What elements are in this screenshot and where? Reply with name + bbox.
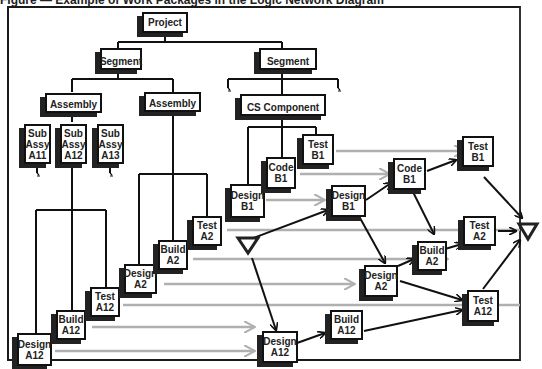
cs-component-box: CS Component bbox=[240, 94, 326, 116]
wp-build-a2-left: Build A2 bbox=[158, 240, 188, 270]
node-code-b1: Code B1 bbox=[393, 158, 426, 190]
node-design-a2: Design A2 bbox=[364, 265, 398, 297]
node-test-a12: Test A12 bbox=[467, 290, 499, 322]
wp-design-a2-left: Design A2 bbox=[124, 264, 157, 294]
sub-assy-a13-box: Sub Assy A13 bbox=[97, 124, 124, 164]
sub-assy-a11-box: Sub Assy A11 bbox=[24, 124, 51, 164]
assembly-box-a1: Assembly bbox=[45, 93, 102, 113]
assembly-box-a2: Assembly bbox=[144, 92, 201, 112]
wp-build-a12-left: Build A12 bbox=[56, 310, 86, 340]
wp-test-a12-left: Test A12 bbox=[90, 287, 120, 317]
node-test-b1: Test B1 bbox=[462, 136, 494, 167]
wp-test-a2-left: Test A2 bbox=[192, 216, 222, 246]
wp-design-a12-left: Design A12 bbox=[17, 333, 52, 366]
wp-test-b1-left: Test B1 bbox=[302, 134, 334, 165]
segment-box-right: Segment bbox=[259, 48, 317, 70]
wp-code-b1-left: Code B1 bbox=[266, 157, 296, 189]
segment-box-left: Segment bbox=[100, 48, 142, 70]
wp-design-b1-left: Design B1 bbox=[230, 184, 265, 218]
project-box: Project bbox=[142, 12, 188, 33]
node-build-a2: Build A2 bbox=[417, 241, 447, 271]
node-design-a12: Design A12 bbox=[262, 331, 298, 363]
sub-assy-a12-box: Sub Assy A12 bbox=[60, 124, 87, 164]
node-build-a12: Build A12 bbox=[330, 310, 363, 340]
node-design-b1: Design B1 bbox=[331, 185, 366, 217]
end-milestone-icon bbox=[519, 224, 537, 239]
node-test-a2: Test A2 bbox=[463, 216, 496, 246]
start-milestone-icon bbox=[238, 238, 258, 253]
